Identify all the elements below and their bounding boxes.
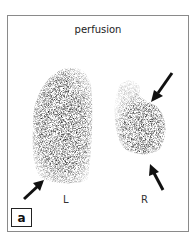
panel-label: a: [11, 208, 32, 227]
figure-panel: perfusion: [7, 15, 189, 232]
perfusion-scan-image: [8, 16, 190, 233]
arrow-right-upper-icon: [151, 73, 172, 102]
arrow-left-lower-icon: [24, 180, 44, 199]
left-lung-label: L: [63, 194, 69, 205]
arrow-right-lower-icon: [149, 164, 163, 190]
right-lung-label: R: [141, 194, 148, 205]
left-lung-uptake: [33, 68, 93, 184]
